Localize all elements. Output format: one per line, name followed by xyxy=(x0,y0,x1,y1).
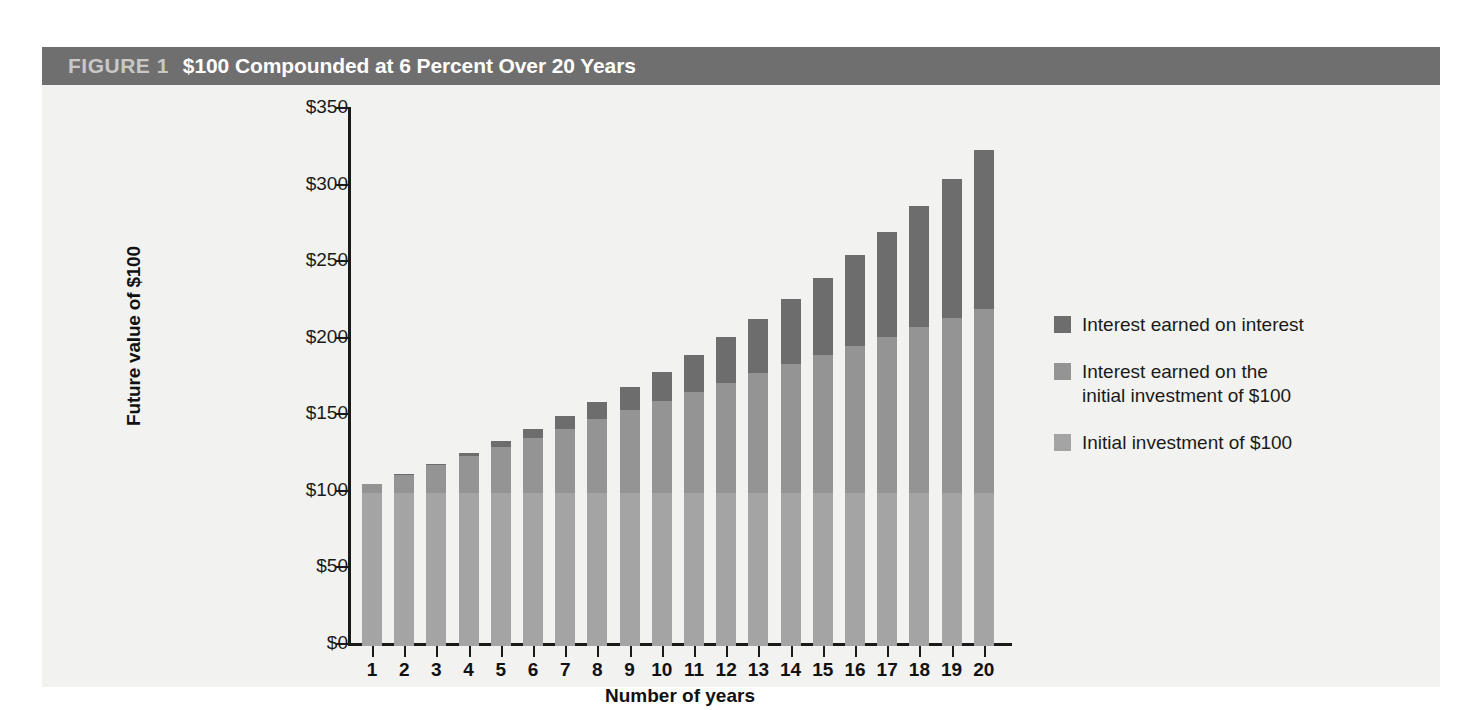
bar xyxy=(942,179,962,646)
bar-segment-compound xyxy=(491,441,511,447)
x-axis-tick xyxy=(952,646,954,657)
bar xyxy=(974,150,994,646)
bar-segment-principal xyxy=(491,493,511,646)
bar-segment-principal xyxy=(555,493,575,646)
bar-segment-simple xyxy=(684,392,704,493)
bar-segment-compound xyxy=(974,150,994,309)
y-axis-line xyxy=(348,107,351,646)
bar-segment-simple xyxy=(426,465,446,493)
bar-group xyxy=(352,107,1016,646)
bar-segment-simple xyxy=(748,373,768,492)
y-axis-tick xyxy=(336,413,348,415)
bar-segment-simple xyxy=(652,401,672,493)
bar-segment-simple xyxy=(523,438,543,493)
bar xyxy=(362,484,382,646)
x-axis-tick xyxy=(694,646,696,657)
bar-segment-simple xyxy=(394,474,414,492)
bar-segment-simple xyxy=(974,309,994,493)
y-axis-tick xyxy=(336,337,348,339)
bar-segment-principal xyxy=(620,493,640,646)
bar-segment-principal xyxy=(748,493,768,646)
bar-segment-principal xyxy=(813,493,833,646)
y-axis-tick xyxy=(336,184,348,186)
bar-segment-compound xyxy=(555,416,575,429)
x-axis-tick xyxy=(726,646,728,657)
bar-segment-compound xyxy=(877,232,897,337)
y-axis-tick xyxy=(336,260,348,262)
bar-segment-principal xyxy=(909,493,929,646)
bar-segment-compound xyxy=(909,206,929,327)
x-axis-tick xyxy=(855,646,857,657)
bar-segment-principal xyxy=(877,493,897,646)
bar-segment-principal xyxy=(394,493,414,646)
x-axis-tick xyxy=(887,646,889,657)
bar-segment-simple xyxy=(942,318,962,493)
bar xyxy=(813,278,833,646)
legend-swatch-principal xyxy=(1054,434,1071,451)
legend-label: Interest earned on theinitial investment… xyxy=(1082,360,1291,409)
bar-segment-compound xyxy=(394,474,414,475)
bar-segment-simple xyxy=(362,484,382,493)
bar-segment-compound xyxy=(845,255,865,346)
x-axis-tick xyxy=(791,646,793,657)
bar xyxy=(748,319,768,646)
legend-label: Initial investment of $100 xyxy=(1082,431,1292,456)
x-axis-tick xyxy=(372,646,374,657)
x-axis-title: Number of years xyxy=(348,685,1012,707)
bar xyxy=(555,416,575,646)
y-axis-tick xyxy=(336,566,348,568)
bar-segment-simple xyxy=(555,429,575,493)
bar xyxy=(523,429,543,646)
x-axis-tick xyxy=(919,646,921,657)
bar-segment-compound xyxy=(781,299,801,364)
legend-swatch-compound xyxy=(1054,316,1071,333)
x-axis-tick-label: 20 xyxy=(964,659,1004,681)
figure-panel: FIGURE 1 $100 Compounded at 6 Percent Ov… xyxy=(42,47,1440,687)
bar xyxy=(716,337,736,646)
x-axis-tick xyxy=(823,646,825,657)
x-axis-tick xyxy=(630,646,632,657)
bar-segment-compound xyxy=(942,179,962,318)
bar xyxy=(426,464,446,646)
bar xyxy=(491,441,511,646)
bar-segment-compound xyxy=(652,372,672,401)
y-axis-tick xyxy=(336,107,348,109)
figure-header: FIGURE 1 $100 Compounded at 6 Percent Ov… xyxy=(42,47,1440,85)
y-axis-title: Future value of $100 xyxy=(123,206,145,466)
bar xyxy=(587,402,607,646)
figure-number: FIGURE 1 xyxy=(68,54,169,78)
bar-segment-simple xyxy=(491,447,511,493)
bar-segment-compound xyxy=(459,453,479,456)
bar-segment-principal xyxy=(587,493,607,646)
x-axis-tick xyxy=(501,646,503,657)
chart-legend: Interest earned on interestInterest earn… xyxy=(1054,313,1384,478)
x-axis-tick xyxy=(533,646,535,657)
x-axis-tick xyxy=(404,646,406,657)
legend-swatch-simple xyxy=(1054,363,1071,380)
x-axis-tick xyxy=(436,646,438,657)
x-axis-tick xyxy=(758,646,760,657)
x-axis-tick xyxy=(984,646,986,657)
bar xyxy=(652,372,672,646)
bar xyxy=(781,299,801,646)
y-axis-tick xyxy=(336,490,348,492)
x-axis-tick xyxy=(662,646,664,657)
bar-segment-principal xyxy=(652,493,672,646)
x-axis-tick xyxy=(469,646,471,657)
bar-segment-compound xyxy=(813,278,833,355)
bar-segment-simple xyxy=(587,419,607,493)
bar-segment-compound xyxy=(523,429,543,438)
bar-segment-principal xyxy=(781,493,801,646)
legend-item: Interest earned on theinitial investment… xyxy=(1054,360,1384,409)
bar-segment-compound xyxy=(716,337,736,382)
bar-segment-principal xyxy=(362,493,382,646)
x-axis-tick xyxy=(597,646,599,657)
bar-segment-principal xyxy=(684,493,704,646)
bar-segment-compound xyxy=(684,355,704,392)
bar-segment-principal xyxy=(523,493,543,646)
bar xyxy=(394,474,414,646)
bar-segment-principal xyxy=(942,493,962,646)
bar-segment-simple xyxy=(620,410,640,493)
chart-plot-area: Future value of $100 $0$50$100$150$200$2… xyxy=(42,85,1440,687)
bar-segment-compound xyxy=(426,464,446,466)
